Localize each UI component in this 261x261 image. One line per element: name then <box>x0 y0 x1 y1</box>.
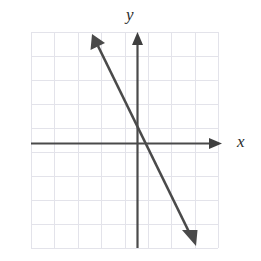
y-axis-arrowhead-icon <box>132 32 143 45</box>
grid-lines <box>31 32 219 249</box>
graphed-line-segment <box>98 46 190 234</box>
y-axis-label: y <box>126 6 134 23</box>
coordinate-plane-svg <box>0 0 261 261</box>
x-axis-arrowhead-icon <box>209 138 222 149</box>
y-axis <box>132 32 143 248</box>
graphed-line-arrowhead-lower-icon <box>182 230 198 246</box>
x-axis <box>31 138 222 149</box>
graph-figure: y x <box>0 0 261 261</box>
x-axis-label: x <box>237 133 245 150</box>
graphed-line-series <box>91 34 198 246</box>
